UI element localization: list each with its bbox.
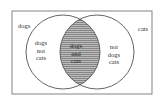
- region-text-line: cats: [32, 54, 50, 62]
- region-text-line: dogs: [32, 39, 50, 47]
- region-not-dogs-cats: not dogs cats: [106, 43, 122, 66]
- region-text-line: and: [68, 50, 84, 58]
- region-text-line: cats: [68, 57, 84, 65]
- region-text-line: not: [106, 43, 122, 51]
- region-text-line: cats: [106, 58, 122, 66]
- set-label-dogs: dogs: [18, 22, 30, 29]
- region-text-line: dogs: [68, 42, 84, 50]
- set-label-cats: cats: [138, 25, 148, 32]
- region-text-line: not: [32, 47, 50, 55]
- venn-diagram: dogs cats dogs not cats dogs and cats no…: [0, 0, 158, 103]
- region-dogs-and-cats: dogs and cats: [68, 42, 84, 65]
- region-dogs-not-cats: dogs not cats: [32, 39, 50, 62]
- region-text-line: dogs: [106, 51, 122, 59]
